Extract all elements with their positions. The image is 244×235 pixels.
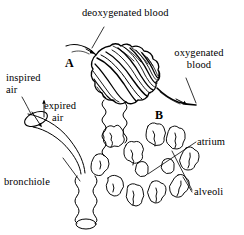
alveoli-cluster <box>91 123 199 206</box>
label-atrium: atrium <box>197 136 225 148</box>
label-inspired-air-line2: air <box>6 84 17 96</box>
bronchiole-terminal <box>75 176 97 229</box>
label-oxygenated-blood-line1: oxygenated <box>160 47 238 59</box>
leader-deoxygenated-blood <box>92 27 104 48</box>
label-deoxygenated-blood: deoxygenated blood <box>82 7 169 19</box>
label-marker-a: A <box>65 57 74 69</box>
respiratory-gas-exchange-diagram: deoxygenated blood oxygenated blood insp… <box>0 0 244 235</box>
label-alveoli: alveoli <box>194 186 223 198</box>
pulmonary-arteriole-deoxygenated <box>66 45 96 55</box>
leader-inspired-air <box>22 97 31 114</box>
arrow-inspired-air <box>32 112 41 126</box>
label-expired-air-line2: air <box>52 112 63 124</box>
pulmonary-venule-oxygenated <box>157 88 196 105</box>
label-oxygenated-blood-line2: blood <box>160 59 238 71</box>
leader-atrium <box>148 142 196 174</box>
capillary-network <box>91 44 159 104</box>
label-inspired-air-line1: inspired <box>6 72 41 84</box>
diagram-canvas <box>0 0 244 235</box>
label-expired-air-line1: expired <box>44 100 76 112</box>
label-marker-b: B <box>155 109 163 121</box>
leader-bronchiole <box>63 158 80 181</box>
leader-oxygenated-blood <box>186 78 196 103</box>
label-bronchiole: bronchiole <box>4 176 50 188</box>
